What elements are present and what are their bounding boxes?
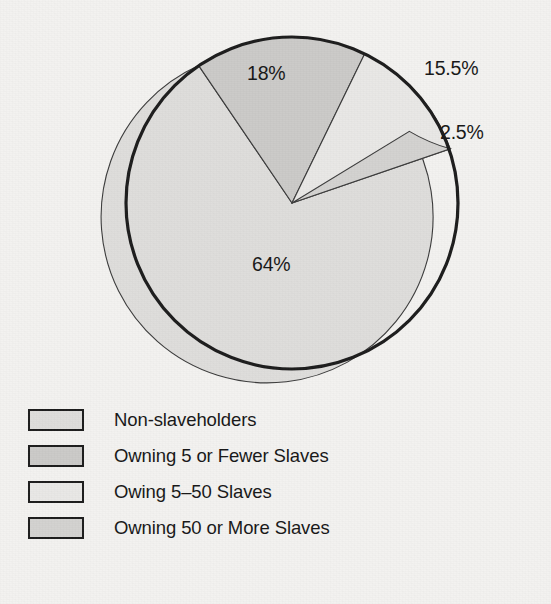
legend-item-fifty-or-more: Owning 50 or More Slaves [28, 510, 508, 546]
pie-chart: 18% 64% 15.5% 2.5% [0, 0, 551, 390]
legend-swatch-icon [28, 445, 84, 467]
legend-label: Non-slaveholders [114, 409, 256, 431]
legend-item-five-or-fewer: Owning 5 or Fewer Slaves [28, 438, 508, 474]
legend-label: Owning 50 or More Slaves [114, 517, 330, 539]
legend-label: Owning 5 or Fewer Slaves [114, 445, 329, 467]
pie-chart-figure: 18% 64% 15.5% 2.5% Non-slaveholders Owni… [0, 0, 551, 604]
legend-swatch-icon [28, 409, 84, 431]
chart-legend: Non-slaveholders Owning 5 or Fewer Slave… [28, 402, 508, 546]
pie-label-five-or-fewer: 18% [247, 62, 285, 85]
legend-swatch-icon [28, 481, 84, 503]
legend-label: Owing 5–50 Slaves [114, 481, 272, 503]
pie-label-fifty-or-more: 2.5% [440, 121, 484, 144]
pie-label-five-to-fifty: 15.5% [424, 57, 478, 80]
legend-item-five-to-fifty: Owing 5–50 Slaves [28, 474, 508, 510]
legend-item-non-slaveholders: Non-slaveholders [28, 402, 508, 438]
legend-swatch-icon [28, 517, 84, 539]
pie-label-non-slaveholders: 64% [252, 253, 290, 276]
